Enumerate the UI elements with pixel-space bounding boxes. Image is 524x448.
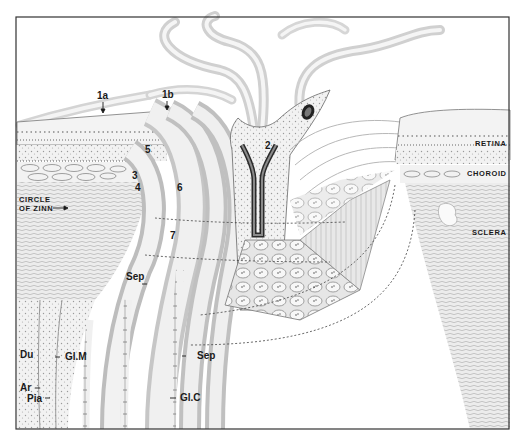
label-sclera: SCLERA bbox=[472, 229, 506, 237]
sclera-right bbox=[405, 183, 510, 429]
label-1b: 1b bbox=[162, 90, 174, 100]
retina-right bbox=[395, 109, 510, 164]
label-sep-lower: Sep bbox=[197, 351, 215, 361]
label-retina: RETINA bbox=[475, 140, 507, 148]
label-2: 2 bbox=[265, 141, 271, 151]
label-glm: Gl.M bbox=[65, 352, 87, 362]
label-6: 6 bbox=[177, 183, 183, 193]
label-4: 4 bbox=[135, 183, 141, 193]
label-choroid: CHOROID bbox=[467, 170, 507, 178]
label-du: Du bbox=[20, 350, 33, 360]
label-circle-of-zinn-line1: CIRCLE bbox=[19, 196, 51, 204]
label-sep-upper: Sep bbox=[126, 272, 144, 282]
label-7: 7 bbox=[170, 231, 176, 241]
optic-nerve-figure: 1a 1b 2 3 4 5 6 7 CIRCLE OF ZINN RETINA … bbox=[0, 0, 524, 448]
label-circle-of-zinn-line2: OF ZINN bbox=[19, 205, 53, 213]
label-ar: Ar bbox=[20, 383, 31, 393]
label-5: 5 bbox=[145, 145, 151, 155]
label-1a: 1a bbox=[97, 91, 108, 101]
illustration-artwork bbox=[0, 0, 524, 448]
label-pia: Pia bbox=[27, 394, 42, 404]
label-glc: Gl.C bbox=[180, 393, 201, 403]
label-3: 3 bbox=[132, 171, 138, 181]
